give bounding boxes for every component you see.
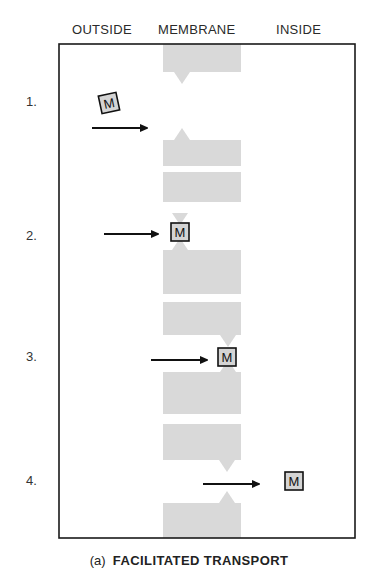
channel-gate-top <box>174 72 190 84</box>
membrane-segment <box>163 424 241 460</box>
channel-gate-top <box>219 460 235 472</box>
membrane-segment <box>163 503 241 538</box>
molecule-label: M <box>222 350 233 365</box>
channel-gate-bottom <box>219 491 235 503</box>
membrane-segment <box>163 302 241 335</box>
caption-tag: (a) <box>90 553 106 568</box>
molecule-label: M <box>175 225 186 240</box>
molecule-label: M <box>289 474 300 489</box>
molecule-m: M <box>171 223 189 241</box>
molecule-m: M <box>285 472 303 490</box>
channel-gate-bottom <box>174 128 190 140</box>
channel-gate-top <box>220 335 236 347</box>
molecule-m: M <box>98 92 119 113</box>
molecule-m: M <box>218 348 236 366</box>
transport-diagram: MMMM <box>0 0 378 579</box>
membrane-segment <box>163 44 241 72</box>
membrane-segment <box>163 372 241 414</box>
membrane-segment <box>163 250 241 294</box>
caption-title: FACILITATED TRANSPORT <box>113 553 288 568</box>
membrane-segment <box>163 172 241 202</box>
membrane-segment <box>163 140 241 166</box>
figure-caption: (a) FACILITATED TRANSPORT <box>0 553 378 568</box>
